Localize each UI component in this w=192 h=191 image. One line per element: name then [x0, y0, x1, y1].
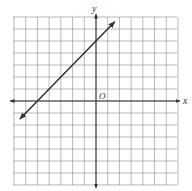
line-series: [20, 22, 115, 119]
x-axis-label: x: [182, 95, 188, 106]
origin-label: O: [99, 91, 106, 101]
plotted-line: [20, 22, 115, 119]
coordinate-plane: x y O: [0, 0, 192, 191]
y-axis-label: y: [91, 3, 97, 14]
